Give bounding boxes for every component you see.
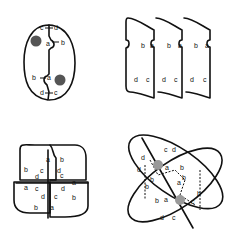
svg-text:b: b bbox=[180, 164, 184, 171]
svg-text:a: a bbox=[205, 42, 209, 49]
svg-text:a: a bbox=[50, 204, 54, 211]
svg-text:a: a bbox=[164, 196, 168, 203]
panel-2: ba ba ba dc dc dc bbox=[126, 18, 210, 98]
svg-text:c: c bbox=[203, 76, 207, 83]
svg-text:a: a bbox=[47, 74, 51, 81]
svg-text:b: b bbox=[194, 42, 198, 49]
nucleus-icon bbox=[175, 195, 185, 205]
nucleus-icon bbox=[153, 160, 163, 170]
panel-3: ab ba cd dc cd ab dc ba bbox=[14, 145, 88, 218]
svg-text:b: b bbox=[72, 194, 76, 201]
svg-text:d: d bbox=[54, 24, 58, 31]
svg-text:d: d bbox=[35, 173, 39, 180]
svg-text:a: a bbox=[24, 184, 28, 191]
svg-text:a: a bbox=[72, 179, 76, 186]
svg-text:d: d bbox=[40, 89, 44, 96]
nucleus-icon bbox=[31, 36, 42, 47]
svg-text:b: b bbox=[34, 204, 38, 211]
svg-text:d: d bbox=[141, 154, 145, 161]
svg-text:d: d bbox=[172, 146, 176, 153]
svg-text:d: d bbox=[134, 76, 138, 83]
svg-text:b: b bbox=[145, 183, 149, 190]
panel-1: cd ab ba dc bbox=[24, 24, 75, 100]
svg-text:d: d bbox=[41, 193, 45, 200]
svg-text:b: b bbox=[167, 42, 171, 49]
svg-text:a: a bbox=[177, 179, 181, 186]
panel-4: cd ab dd bb ab bb ac dc bbox=[117, 121, 226, 235]
svg-text:c: c bbox=[54, 89, 58, 96]
svg-text:d: d bbox=[61, 185, 65, 192]
svg-text:d: d bbox=[190, 76, 194, 83]
svg-text:a: a bbox=[46, 156, 50, 163]
svg-text:b: b bbox=[24, 166, 28, 173]
svg-text:b: b bbox=[155, 197, 159, 204]
svg-text:c: c bbox=[35, 185, 39, 192]
svg-text:d: d bbox=[162, 76, 166, 83]
svg-text:b: b bbox=[60, 156, 64, 163]
svg-text:c: c bbox=[146, 76, 150, 83]
svg-text:b: b bbox=[182, 174, 186, 181]
svg-text:b: b bbox=[141, 42, 145, 49]
svg-text:a: a bbox=[150, 42, 154, 49]
diagram-canvas: cd ab ba dc ba ba ba dc dc dc ab ba cd d… bbox=[0, 0, 226, 238]
svg-text:c: c bbox=[40, 24, 44, 31]
svg-text:c: c bbox=[60, 172, 64, 179]
nucleus-icon bbox=[55, 75, 66, 86]
svg-text:b: b bbox=[61, 39, 65, 46]
svg-text:d: d bbox=[160, 214, 164, 221]
svg-text:a: a bbox=[165, 164, 169, 171]
svg-text:c: c bbox=[172, 214, 176, 221]
svg-text:b: b bbox=[150, 176, 154, 183]
svg-text:b: b bbox=[197, 190, 201, 197]
svg-text:b: b bbox=[32, 74, 36, 81]
svg-text:d: d bbox=[137, 166, 141, 173]
svg-text:a: a bbox=[178, 42, 182, 49]
svg-text:c: c bbox=[54, 193, 58, 200]
svg-text:c: c bbox=[40, 167, 44, 174]
svg-text:c: c bbox=[191, 198, 195, 205]
svg-text:c: c bbox=[174, 76, 178, 83]
svg-text:a: a bbox=[46, 40, 50, 47]
svg-text:c: c bbox=[164, 146, 168, 153]
